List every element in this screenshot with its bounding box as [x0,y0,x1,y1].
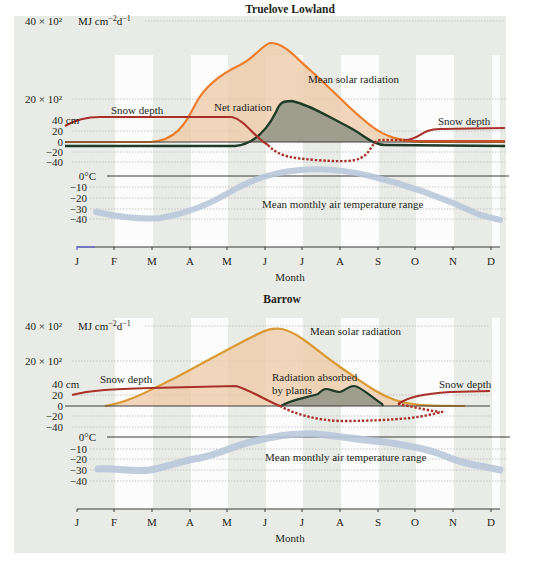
svg-text:J: J [300,516,305,528]
svg-text:F: F [111,516,117,528]
svg-text:A: A [186,255,194,267]
label-snow-depth-left: Snow depth [100,373,153,385]
label-absorbed-radiation-line1: Radiation absorbed [272,371,358,383]
label-snow-depth-right: Snow depth [439,378,492,390]
svg-text:J: J [75,255,80,267]
svg-text:J: J [300,255,305,267]
svg-text:N: N [449,255,457,267]
label-snow-depth-left: Snow depth [111,104,164,116]
label-mean-solar-radiation: Mean solar radiation [308,73,400,85]
svg-text:F: F [111,255,117,267]
svg-text:M: M [147,255,157,267]
radiation-tick-20: 20 × 10² [25,355,63,367]
svg-text:J: J [263,255,268,267]
svg-text:M: M [222,255,232,267]
snow-tick-neg40: −40 [46,421,64,433]
temp-tick-neg40: −40 [70,213,88,225]
radiation-tick-20: 20 × 10² [25,93,63,105]
x-axis-label: Month [275,532,305,544]
svg-text:M: M [222,516,232,528]
svg-text:D: D [487,516,495,528]
radiation-tick-40: 40 × 10² [25,15,63,27]
label-snow-depth-right: Snow depth [438,115,491,127]
label-absorbed-radiation-line2: by plants [272,384,312,396]
temp-tick-0: 0°C [79,431,96,443]
svg-text:A: A [186,516,194,528]
temp-tick-neg40: −40 [70,475,88,487]
svg-text:N: N [449,516,457,528]
svg-text:S: S [375,255,381,267]
x-axis-label: Month [275,271,305,283]
label-mean-solar-radiation: Mean solar radiation [310,325,402,337]
figure: Truelove Lowland 40 × 10² MJ cm−2d−1 20 … [0,0,541,571]
label-net-radiation: Net radiation [214,101,272,113]
svg-text:S: S [375,516,381,528]
svg-text:A: A [336,255,344,267]
snow-tick-neg40: −40 [46,156,64,168]
svg-text:A: A [336,516,344,528]
label-temperature-range: Mean monthly air temperature range [262,198,423,210]
chart-title: Truelove Lowland [245,3,335,15]
label-temperature-range: Mean monthly air temperature range [265,451,426,463]
svg-text:O: O [411,255,419,267]
svg-text:D: D [487,255,495,267]
svg-text:M: M [147,516,157,528]
svg-text:O: O [411,516,419,528]
svg-text:J: J [263,516,268,528]
radiation-tick-40: 40 × 10² [25,320,63,332]
svg-text:J: J [75,516,80,528]
chart-title: Barrow [263,293,301,305]
